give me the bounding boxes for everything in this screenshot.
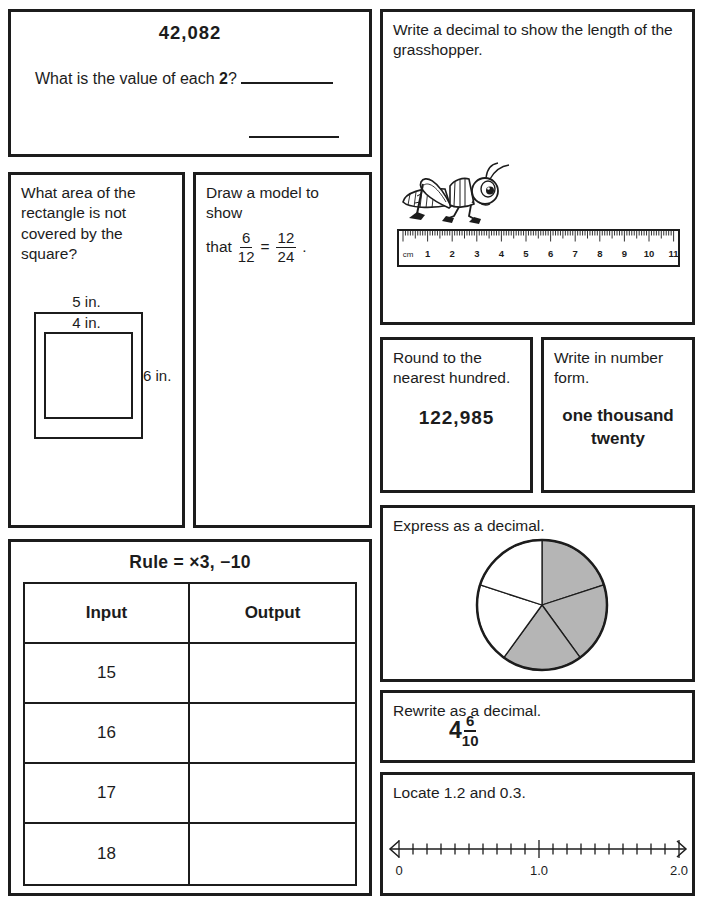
table-rule-title: Rule = ×3, −10 [11,552,369,573]
table-output-cell[interactable] [190,704,355,764]
number-line: 01.02.0 [387,831,689,883]
question-mark: ? [228,70,241,87]
io-table: Input Output 15 16 17 18 [23,582,357,886]
mixed-number: 4 6 10 [449,713,478,749]
table-input-cell: 16 [25,704,190,764]
mixed-whole: 4 [449,717,462,744]
rewrite-prompt: Rewrite as a decimal. [383,693,692,721]
table-header-output: Output [190,584,355,644]
fraction-numerator: 12 [276,230,297,248]
svg-text:cm: cm [403,250,414,259]
number-form-box: Write in number form. one thousand twent… [541,337,695,493]
pie-chart [472,535,612,675]
answer-blank-1[interactable] [241,68,333,84]
table-input-cell: 18 [25,824,190,884]
fraction-12-24: 12 24 [276,230,297,265]
fraction-denominator: 10 [462,732,479,749]
svg-text:1.0: 1.0 [530,863,548,878]
rectangle-area-box: What area of the rectangle is not covere… [8,172,185,528]
table-input-cell: 15 [25,644,190,704]
svg-text:4: 4 [499,248,505,259]
round-box: Round to the nearest hundred. 122,985 [380,337,533,493]
table-output-cell[interactable] [190,824,355,884]
mixed-fraction: 6 10 [462,713,479,749]
draw-model-box: Draw a model to show that 6 12 = 12 24 . [193,172,372,528]
question-text: What is the value of each [35,70,219,87]
worksheet-page: 42,082 What is the value of each 2? What… [0,0,702,905]
fraction-numerator: 6 [240,230,252,248]
svg-text:10: 10 [644,248,655,259]
model-prompt-line1: Draw a model to show [196,175,369,224]
outer-width-label: 5 in. [34,293,139,310]
svg-text:9: 9 [622,248,627,259]
fraction-numerator: 6 [464,713,476,732]
inner-width-label: 4 in. [44,314,129,331]
ruler: cm1234567891011 [397,229,680,267]
svg-text:7: 7 [573,248,578,259]
rewrite-decimal-box: Rewrite as a decimal. 4 6 10 [380,690,695,763]
number-words: one thousand twenty [548,405,688,451]
round-number: 122,985 [383,407,530,429]
svg-text:8: 8 [597,248,602,259]
fraction-6-12: 6 12 [238,230,255,265]
model-that: that [206,238,232,256]
io-table-box: Rule = ×3, −10 Input Output 15 16 17 18 [8,539,372,896]
grasshopper-prompt: Write a decimal to show the length of th… [383,12,692,61]
inner-square [44,332,133,419]
place-value-question: What is the value of each 2? [35,68,369,88]
svg-text:5: 5 [523,248,529,259]
number-line-box: Locate 1.2 and 0.3. 01.02.0 [380,772,695,896]
fraction-denominator: 24 [278,248,295,265]
model-equation: that 6 12 = 12 24 . [206,230,369,265]
express-decimal-box: Express as a decimal. [380,505,695,682]
grasshopper-illustration [395,162,513,228]
period: . [302,238,306,256]
round-prompt: Round to the nearest hundred. [383,340,530,389]
svg-text:2: 2 [450,248,455,259]
number-line-prompt: Locate 1.2 and 0.3. [383,775,692,803]
number-form-prompt: Write in number form. [544,340,692,389]
number-line-labels: 01.02.0 [395,863,688,878]
svg-text:1: 1 [425,248,431,259]
answer-blank-2[interactable] [249,122,339,138]
table-input-cell: 17 [25,764,190,824]
grasshopper-antenna [490,165,509,179]
grasshopper-box: Write a decimal to show the length of th… [380,9,695,325]
place-value-box: 42,082 What is the value of each 2? [8,9,372,157]
area-question: What area of the rectangle is not covere… [11,175,182,265]
svg-text:6: 6 [548,248,553,259]
equals-sign: = [261,238,270,256]
place-value-number: 42,082 [11,22,369,44]
svg-text:3: 3 [474,248,479,259]
svg-text:0: 0 [395,863,402,878]
svg-text:11: 11 [669,248,680,259]
fraction-denominator: 12 [238,248,255,265]
number-line-ticks [399,840,679,858]
table-header-input: Input [25,584,190,644]
svg-text:2.0: 2.0 [670,863,688,878]
outer-height-label: 6 in. [143,367,171,384]
question-bold-digit: 2 [219,70,228,87]
pie-prompt: Express as a decimal. [383,508,692,536]
grasshopper-thorax [450,178,474,207]
table-output-cell[interactable] [190,764,355,824]
table-output-cell[interactable] [190,644,355,704]
